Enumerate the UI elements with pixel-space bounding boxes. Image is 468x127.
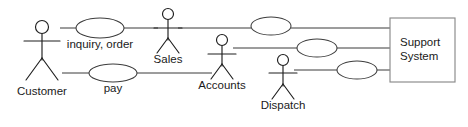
actor-accounts-label: Accounts xyxy=(198,79,246,91)
uml-diagram-svg: Support System inquiry, order pay xyxy=(0,0,468,127)
support-system-label-line2: System xyxy=(400,50,438,62)
actor-dispatch[interactable]: Dispatch xyxy=(261,55,306,112)
use-case-label-pay: pay xyxy=(104,82,123,94)
actor-sales[interactable]: Sales xyxy=(154,9,183,66)
use-case-ellipse-unlabeled-3[interactable] xyxy=(337,61,377,79)
actor-dispatch-leg-right xyxy=(283,84,294,99)
actor-sales-label: Sales xyxy=(154,53,183,65)
actor-customer-head xyxy=(36,21,49,34)
actor-customer-label: Customer xyxy=(17,85,67,97)
use-case-label-inquiry-order: inquiry, order xyxy=(67,38,133,50)
actor-sales-leg-right xyxy=(168,38,179,53)
use-case-unlabeled-3[interactable] xyxy=(337,61,377,79)
actor-sales-leg-left xyxy=(157,38,168,53)
actor-accounts-leg-left xyxy=(211,64,222,79)
support-system-label-line1: Support xyxy=(400,36,441,48)
use-case-ellipse-unlabeled-2[interactable] xyxy=(297,39,337,57)
use-case-pay[interactable]: pay xyxy=(89,64,137,94)
use-case-inquiry-order[interactable]: inquiry, order xyxy=(67,18,133,50)
actor-dispatch-label: Dispatch xyxy=(261,99,306,111)
actor-accounts[interactable]: Accounts xyxy=(198,35,246,92)
actor-dispatch-head xyxy=(278,55,289,66)
actor-customer[interactable]: Customer xyxy=(17,21,67,98)
support-system-node[interactable]: Support System xyxy=(390,18,455,82)
use-case-ellipse-pay[interactable] xyxy=(89,64,137,82)
use-case-diagram-canvas: Support System inquiry, order pay xyxy=(0,0,468,127)
actor-sales-head xyxy=(163,9,174,20)
use-case-unlabeled-1[interactable] xyxy=(251,17,291,35)
use-case-ellipse-inquiry-order[interactable] xyxy=(76,18,124,38)
use-case-ellipse-unlabeled-1[interactable] xyxy=(251,17,291,35)
actor-accounts-head xyxy=(217,35,228,46)
actor-dispatch-leg-left xyxy=(272,84,283,99)
actor-accounts-leg-right xyxy=(222,64,233,79)
use-case-unlabeled-2[interactable] xyxy=(297,39,337,57)
actor-customer-leg-right xyxy=(42,58,58,80)
actor-customer-leg-left xyxy=(26,58,42,80)
